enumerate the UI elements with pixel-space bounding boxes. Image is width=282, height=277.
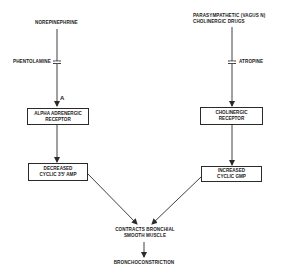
alpha-adrenergic-receptor-box: ALPHA ADRENERGIC RECEPTOR	[27, 108, 89, 125]
increased-cgmp-box: INCREASED CYCLIC GMP	[201, 166, 262, 182]
contracts-line-2: SMOOTH MUSCLE	[112, 233, 178, 239]
bronchoconstriction-label: BRONCHOCONSTRICTION	[108, 260, 180, 266]
parasympathetic-label: PARASYMPATHETIC (VAGUS N) CHOLINERGIC DR…	[193, 13, 265, 25]
phentolamine-label: PHENTOLAMINE	[13, 59, 51, 65]
decreased-line-2: CYCLIC 3'5' AMP	[40, 172, 77, 178]
increased-line-2: CYCLIC GMP	[217, 174, 246, 180]
parasympathetic-line-2: CHOLINERGIC DRUGS	[193, 19, 265, 25]
decreased-camp-box: DECREASED CYCLIC 3'5' AMP	[28, 163, 88, 181]
diagonal-arrow-increased-to-contracts	[152, 177, 201, 224]
cholinergic-receptor-box: CHOLINERGIC RECEPTOR	[200, 107, 263, 125]
alpha-receptor-line-2: RECEPTOR	[45, 117, 70, 123]
contracts-bronchial-muscle-label: CONTRACTS BRONCHIAL SMOOTH MUSCLE	[112, 227, 178, 239]
atropine-label: ATROPINE	[239, 59, 263, 65]
cholinergic-line-2: RECEPTOR	[219, 116, 244, 122]
alpha-symbol-label: α	[60, 95, 64, 101]
norepinephrine-label: NOREPINEPHRINE	[35, 20, 78, 26]
diagonal-arrow-decreased-to-contracts	[88, 174, 137, 224]
